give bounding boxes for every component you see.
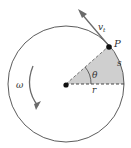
center-dot [63,82,68,87]
velocity-arrowhead-icon [78,9,87,18]
velocity-label: vt [98,22,106,33]
radius-label: r [92,85,97,95]
point-p-dot [106,44,112,50]
point-label: P [113,38,121,49]
arc-length-label: s [117,58,122,68]
angle-label: θ [92,70,98,80]
omega-arrow [29,66,38,106]
rotation-diagram: vt P s θ r ω [0,0,131,148]
angular-velocity-label: ω [16,80,24,90]
